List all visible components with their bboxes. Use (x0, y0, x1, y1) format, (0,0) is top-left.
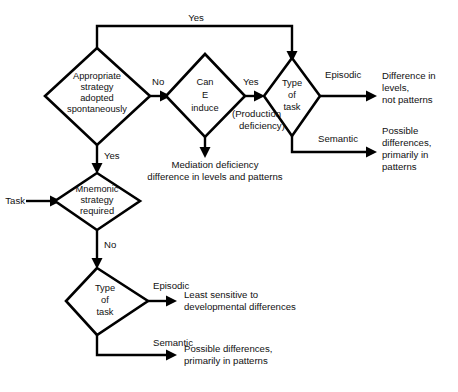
node-can-e-induce-line1: Can (196, 77, 213, 87)
outcome-mediation-deficiency-line2: difference in levels and patterns (147, 171, 282, 182)
node-type-of-task-bottom[interactable]: Type of task (66, 268, 148, 335)
node-mnemonic-strategy-line2: strategy (80, 195, 113, 205)
node-mnemonic-strategy-line1: Mnemonic (76, 184, 119, 194)
edge-label-induce-yes: Yes (243, 76, 259, 87)
node-type-of-task-top-line1: Type (282, 78, 302, 88)
edge-label-production-deficiency-line2: deficiency) (239, 120, 285, 131)
node-appropriate-strategy-line2: strategy (80, 82, 113, 92)
outcome-possible-differences-top-line3: primarily in (382, 149, 428, 160)
outcome-least-sensitive: Least sensitive to developmental differe… (184, 289, 296, 312)
node-can-e-induce-line3: induce (191, 103, 218, 113)
node-type-of-task-bottom-line3: task (96, 307, 113, 317)
flowchart-canvas: Appropriate strategy adopted spontaneous… (0, 0, 458, 392)
edge-strategy-yes-top (97, 26, 298, 62)
edge-label-strategy-yes-top: Yes (188, 12, 204, 23)
node-mnemonic-strategy-line3: required (80, 206, 114, 216)
edge-induce-down (200, 136, 211, 158)
outcome-possible-differences-top-line4: patterns (382, 161, 417, 172)
outcome-difference-levels: Difference in levels, not patterns (382, 70, 436, 105)
edge-label-strategy-yes-down: Yes (104, 150, 120, 161)
outcome-possible-differences-top-line1: Possible (382, 125, 418, 136)
entry-label-task: Task (5, 195, 25, 206)
node-appropriate-strategy[interactable]: Appropriate strategy adopted spontaneous… (45, 48, 150, 145)
node-type-of-task-bottom-line1: Type (95, 283, 115, 293)
flowchart-svg: Appropriate strategy adopted spontaneous… (0, 0, 458, 392)
node-appropriate-strategy-line4: spontaneously (67, 104, 127, 114)
edge-label-strategy-no: No (152, 76, 164, 87)
edge-label-top-task-episodic: Episodic (325, 69, 361, 80)
node-type-of-task-bottom-line2: of (101, 295, 109, 305)
outcome-least-sensitive-line1: Least sensitive to (184, 289, 258, 300)
edge-bottom-task-episodic (148, 296, 177, 307)
outcome-possible-differences-bottom: Possible differences, primarily in patte… (184, 343, 272, 366)
outcome-possible-differences-top-line2: differences, (382, 137, 431, 148)
node-appropriate-strategy-line3: adopted (80, 93, 114, 103)
outcome-possible-differences-bottom-line2: primarily in patterns (184, 355, 268, 366)
node-mnemonic-strategy[interactable]: Mnemonic strategy required (55, 173, 140, 230)
node-can-e-induce[interactable]: Can E induce (166, 54, 245, 137)
outcome-possible-differences-top: Possible differences, primarily in patte… (382, 125, 431, 172)
node-type-of-task-top-line3: task (283, 102, 300, 112)
edge-label-top-task-semantic: Semantic (318, 133, 358, 144)
edge-mnemonic-no (92, 230, 103, 269)
outcome-possible-differences-bottom-line1: Possible differences, (184, 343, 272, 354)
outcome-mediation-deficiency: Mediation deficiency difference in level… (147, 159, 282, 182)
node-appropriate-strategy-line1: Appropriate (73, 71, 121, 81)
edge-label-production-deficiency-line1: (Production (232, 108, 281, 119)
edge-label-mnemonic-no: No (104, 239, 116, 250)
node-can-e-induce-line2: E (202, 90, 208, 100)
outcome-difference-levels-line1: Difference in (382, 70, 436, 81)
outcome-difference-levels-line3: not patterns (382, 94, 433, 105)
edge-top-task-episodic (320, 91, 377, 102)
node-type-of-task-top-line2: of (288, 90, 296, 100)
outcome-mediation-deficiency-line1: Mediation deficiency (172, 159, 259, 170)
outcome-difference-levels-line2: levels, (382, 82, 409, 93)
outcome-least-sensitive-line2: developmental differences (184, 301, 296, 312)
edge-induce-yes (245, 91, 265, 102)
edge-strategy-yes-down (92, 145, 103, 174)
